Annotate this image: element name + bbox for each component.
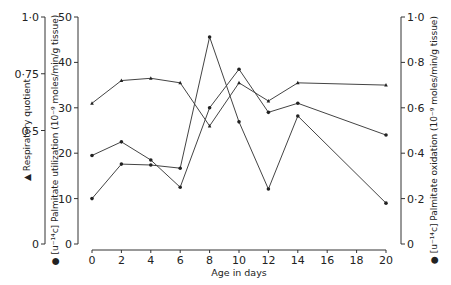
utilization-axis-tick-label: 20 (58, 147, 72, 160)
series-group (90, 35, 388, 205)
data-point-dot (208, 106, 212, 110)
oxidation-axis-title: ● [u⁻¹⁴c] Palmitate oxidation (10⁻⁹ mole… (429, 16, 439, 264)
x-axis-tick-label: 6 (177, 254, 184, 267)
utilization-axis-tick-label: 30 (58, 102, 72, 115)
data-point-dot (384, 133, 388, 137)
x-axis-tick-label: 20 (379, 254, 393, 267)
data-point-dot (208, 35, 212, 39)
rq-axis-tick-label: 0 (32, 238, 39, 251)
rq-axis-tick-label: 1·0 (22, 11, 40, 24)
x-axis-tick-label: 10 (232, 254, 246, 267)
data-point-dot (237, 120, 241, 124)
data-point-dot (120, 140, 124, 144)
rq-axis-title: ▲ Respiratory quotient (22, 79, 32, 181)
utilization-axis-title: ● [u⁻¹⁴c] Palmitate utilization (10⁻⁹ mo… (50, 15, 60, 266)
utilization-axis-tick-label: 0 (65, 238, 72, 251)
x-axis-tick-label: 8 (206, 254, 213, 267)
series-line-2 (92, 69, 386, 187)
oxidation-axis-tick-label: 1·0 (407, 11, 425, 24)
oxidation-axis-tick-label: 0·8 (407, 56, 425, 69)
x-axis-tick-label: 4 (147, 254, 154, 267)
data-point-dot (296, 114, 300, 118)
utilization-axis-tick-label: 50 (58, 11, 72, 24)
data-point-dot (149, 158, 153, 162)
x-axis-title: Age in days (211, 267, 267, 278)
data-point-dot (237, 67, 241, 71)
data-point-dot (267, 111, 271, 115)
rq-axis-tick-label: 0·75 (15, 68, 40, 81)
x-axis-tick-label: 12 (261, 254, 275, 267)
x-axis-tick-label: 2 (118, 254, 125, 267)
x-axis-tick-label: 16 (320, 254, 334, 267)
data-point-dot (90, 154, 94, 158)
data-point-dot (178, 166, 182, 170)
utilization-axis-tick-label: 40 (58, 56, 72, 69)
data-point-dot (149, 163, 153, 167)
line-chart: 00·50·751·00102030405000·20·40·60·81·002… (0, 0, 451, 285)
data-point-dot (178, 185, 182, 189)
oxidation-axis-tick-label: 0·4 (407, 147, 425, 160)
data-point-triangle (237, 81, 241, 85)
x-axis-tick-label: 14 (291, 254, 305, 267)
series-line-1 (92, 37, 386, 203)
x-axis-tick-label: 0 (89, 254, 96, 267)
axes-group: 00·50·751·00102030405000·20·40·60·81·002… (15, 11, 425, 267)
utilization-axis-tick-label: 10 (58, 193, 72, 206)
oxidation-axis-tick-label: 0 (407, 238, 414, 251)
oxidation-axis-tick-label: 0·2 (407, 193, 425, 206)
x-axis-tick-label: 18 (350, 254, 364, 267)
data-point-dot (296, 101, 300, 105)
oxidation-axis-tick-label: 0·6 (407, 102, 425, 115)
data-point-dot (267, 187, 271, 191)
data-point-dot (90, 197, 94, 201)
data-point-dot (384, 201, 388, 205)
data-point-dot (120, 162, 124, 166)
